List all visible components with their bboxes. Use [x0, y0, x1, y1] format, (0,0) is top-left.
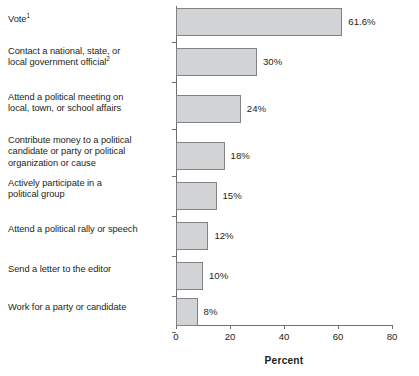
x-axis-tick: [392, 325, 393, 329]
category-label-line: local government official2: [8, 57, 170, 68]
category-label-line: Actively participate in a: [8, 178, 170, 189]
category-label: Vote1: [8, 14, 170, 25]
category-label: Contact a national, state, orlocal gover…: [8, 46, 170, 69]
x-axis-title: Percent: [176, 355, 392, 366]
category-label-line: Attend a political rally or speech: [8, 224, 170, 235]
x-axis-tick: [284, 325, 285, 329]
bar-value-label: 12%: [214, 230, 233, 241]
bar: [176, 298, 198, 326]
category-label: Contribute money to a politicalcandidate…: [8, 135, 170, 169]
category-label-line: candidate or party or political: [8, 146, 170, 157]
x-axis-tick: [230, 325, 231, 329]
plot-area: 020406080 61.6%30%24%18%15%12%10%8%: [176, 0, 419, 326]
footnote-marker: 2: [106, 55, 110, 62]
category-label: Work for a party or candidate: [8, 302, 170, 313]
category-label-line: Contact a national, state, or: [8, 46, 170, 57]
category-label-line: Contribute money to a political: [8, 135, 170, 146]
x-axis-tick-label: 0: [161, 331, 191, 342]
bar: [176, 262, 203, 290]
y-axis-tick: [172, 176, 176, 177]
y-axis-tick: [172, 256, 176, 257]
x-axis-tick-label: 20: [215, 331, 245, 342]
category-label: Attend a political rally or speech: [8, 224, 170, 235]
y-axis-tick: [172, 42, 176, 43]
bar: [176, 95, 241, 123]
bar: [176, 8, 342, 36]
x-axis-tick: [338, 325, 339, 329]
y-axis-tick: [172, 216, 176, 217]
bar-value-label: 10%: [209, 270, 228, 281]
x-axis-tick-label: 40: [269, 331, 299, 342]
x-axis-tick-label: 60: [323, 331, 353, 342]
bar-value-label: 30%: [263, 56, 282, 67]
horizontal-bar-chart: Vote1Contact a national, state, orlocal …: [0, 0, 419, 376]
bar: [176, 142, 225, 170]
bar: [176, 182, 217, 210]
bar-value-label: 18%: [231, 150, 250, 161]
y-axis-tick: [172, 129, 176, 130]
y-axis-tick: [172, 296, 176, 297]
bar-value-label: 8%: [204, 306, 218, 317]
bar-value-label: 24%: [247, 103, 266, 114]
x-axis-tick-label: 80: [377, 331, 407, 342]
category-label-line: Attend a political meeting on: [8, 92, 170, 103]
category-label-line: local, town, or school affairs: [8, 103, 170, 114]
category-label-line: political group: [8, 189, 170, 200]
bar: [176, 222, 208, 250]
category-label-line: organization or cause: [8, 158, 170, 169]
category-label-line: Send a letter to the editor: [8, 264, 170, 275]
category-label-line: Vote1: [8, 14, 170, 25]
footnote-marker: 1: [26, 12, 30, 19]
bar-value-label: 61.6%: [348, 16, 375, 27]
bar-value-label: 15%: [223, 190, 242, 201]
category-label: Attend a political meeting onlocal, town…: [8, 92, 170, 115]
category-label: Send a letter to the editor: [8, 264, 170, 275]
y-axis-tick: [172, 82, 176, 83]
bar: [176, 48, 257, 76]
category-label-line: Work for a party or candidate: [8, 302, 170, 313]
category-label: Actively participate in apolitical group: [8, 178, 170, 201]
